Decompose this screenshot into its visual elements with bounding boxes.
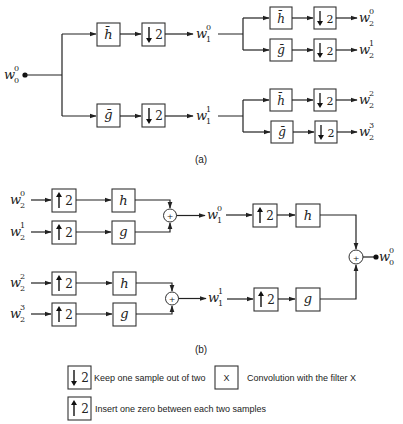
analysis-w1-1-label: w 1 1 [196,105,211,126]
synthesis-panel: w 0 2 w 1 2 w 2 2 w 3 2 2 2 [10,189,394,355]
svg-text:2: 2 [155,109,163,123]
svg-text:2: 2 [20,233,25,242]
svg-text:2: 2 [65,277,73,291]
svg-text:0: 0 [389,246,394,255]
svg-text:2: 2 [81,371,89,385]
svg-text:2: 2 [20,272,25,281]
svg-text:2: 2 [327,45,334,58]
svg-text:2: 2 [65,194,73,208]
svg-text:h: h [119,193,127,208]
svg-text:0: 0 [217,204,222,213]
svg-text:ḡ: ḡ [278,125,286,139]
svg-text:2: 2 [81,402,89,416]
svg-text:2: 2 [327,13,334,26]
synthesis-w2-2-label: w 2 2 [10,272,25,293]
synthesis-w2-3-label: w 3 2 [10,303,25,324]
svg-text:2: 2 [369,51,374,60]
panel-b-caption: (b) [195,344,207,355]
svg-text:0: 0 [389,258,394,267]
svg-text:X: X [223,373,229,383]
synthesis-w2-1-label: w 1 2 [10,221,25,242]
svg-text:1: 1 [217,216,222,225]
legend-upsample-text: Insert one zero between each two samples [95,404,267,414]
synthesis-w2-0-label: w 0 2 [10,189,25,210]
svg-text:3: 3 [20,303,25,312]
svg-text:2: 2 [369,19,374,28]
panel-a-caption: (a) [195,154,207,165]
analysis-w2-0-label: w 0 2 [359,7,374,28]
svg-text:0: 0 [206,23,211,32]
svg-text:h̄: h̄ [277,10,285,26]
svg-text:1: 1 [218,287,223,296]
svg-text:2: 2 [20,201,25,210]
svg-text:0: 0 [14,64,19,73]
svg-text:1: 1 [206,105,211,114]
svg-text:+: + [353,254,360,263]
filter-hbar-label: h̄ [104,26,112,42]
analysis-w1-0-label: w 0 1 [196,23,211,44]
analysis-w2-2-label: w 2 2 [359,89,374,110]
svg-text:1: 1 [218,299,223,308]
analysis-panel: w 0 0 h̄ 2 w 0 1 ḡ 2 w [4,7,374,165]
analysis-w2-3-label: w 3 2 [359,121,374,142]
legend: 2 Keep one sample out of two X Convoluti… [68,366,356,420]
filter-bank-diagram: w 0 0 h̄ 2 w 0 1 ḡ 2 w [0,0,403,424]
svg-text:h̄: h̄ [277,92,285,108]
filter-gbar-label: ḡ [104,107,112,122]
svg-text:ḡ: ḡ [277,43,285,57]
synthesis-w1-1-label: w 1 1 [208,287,223,308]
svg-text:2: 2 [267,293,275,307]
svg-text:h: h [304,208,312,223]
svg-text:0: 0 [20,189,25,198]
svg-text:h: h [120,276,128,291]
output-node-dot [373,254,378,259]
svg-text:2: 2 [155,28,163,42]
svg-text:2: 2 [328,127,335,140]
svg-text:2: 2 [327,95,334,108]
svg-text:2: 2 [65,226,73,240]
svg-text:2: 2 [369,89,374,98]
svg-text:1: 1 [206,35,211,44]
svg-text:g: g [304,291,312,306]
split-wire [25,34,62,116]
svg-text:+: + [167,212,174,221]
svg-text:0: 0 [14,76,19,85]
svg-text:2: 2 [369,133,374,142]
svg-text:+: + [169,295,176,304]
synthesis-w1-0-label: w 0 1 [207,204,222,225]
svg-text:0: 0 [369,7,374,16]
svg-text:1: 1 [206,117,211,126]
svg-text:3: 3 [369,121,374,130]
legend-downsample-text: Keep one sample out of two [94,373,206,383]
svg-text:g: g [119,224,127,239]
svg-text:2: 2 [20,284,25,293]
svg-text:2: 2 [369,101,374,110]
legend-filter-text: Convolution with the filter X [247,373,356,383]
svg-text:2: 2 [65,308,73,322]
svg-text:2: 2 [266,209,274,223]
synthesis-output-label: w 0 0 [379,246,394,267]
svg-text:g: g [120,306,128,321]
analysis-input-label: w 0 0 [4,64,19,85]
svg-text:2: 2 [20,315,25,324]
svg-text:1: 1 [20,221,25,230]
analysis-w2-1-label: w 1 2 [359,39,374,60]
svg-text:1: 1 [369,39,374,48]
